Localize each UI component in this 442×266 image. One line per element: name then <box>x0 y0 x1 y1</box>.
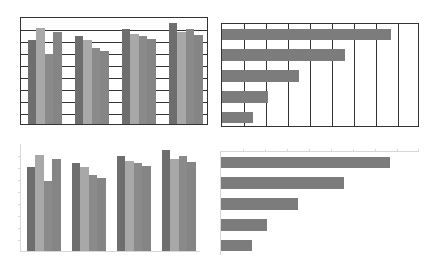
x-tick <box>397 149 398 152</box>
bar <box>221 157 390 168</box>
chart-top-right <box>221 23 419 127</box>
bar <box>222 112 253 123</box>
bar <box>83 40 92 124</box>
bar <box>100 51 109 124</box>
bar <box>222 70 299 81</box>
bar <box>44 181 53 251</box>
gridline <box>398 24 399 126</box>
bar <box>134 163 143 251</box>
bar <box>170 159 179 251</box>
bar <box>45 54 54 124</box>
bar <box>162 150 171 251</box>
y-tick <box>18 204 21 205</box>
bar <box>187 162 196 251</box>
bar <box>221 198 298 209</box>
bar <box>139 36 148 124</box>
chart-top-left <box>20 17 208 125</box>
bar <box>52 159 61 251</box>
bar <box>130 34 139 124</box>
x-tick <box>265 149 266 152</box>
bar <box>147 39 156 124</box>
y-tick <box>18 192 21 193</box>
x-tick <box>287 149 288 152</box>
bar <box>221 177 344 188</box>
bar <box>27 167 36 251</box>
bar <box>75 36 84 124</box>
x-tick <box>243 149 244 152</box>
bar <box>117 156 126 251</box>
plot-area <box>220 151 418 255</box>
x-tick <box>418 149 419 152</box>
bar <box>53 32 62 124</box>
bar <box>89 175 98 251</box>
x-tick <box>309 149 310 152</box>
y-tick <box>18 180 21 181</box>
chart-bottom-left <box>20 144 200 252</box>
bar <box>80 167 89 251</box>
plot-area <box>221 23 419 127</box>
y-tick <box>18 216 21 217</box>
x-tick <box>375 149 376 152</box>
bar <box>28 40 37 124</box>
bar <box>221 240 252 251</box>
bar <box>194 35 203 124</box>
bar <box>169 23 178 124</box>
chart-bottom-right <box>220 151 418 255</box>
y-tick <box>18 228 21 229</box>
bar <box>35 155 44 251</box>
bar <box>222 49 345 60</box>
bar <box>177 32 186 124</box>
bar <box>142 166 151 251</box>
plot-area <box>20 17 208 125</box>
plot-area <box>20 144 200 252</box>
bar <box>222 29 391 40</box>
y-tick <box>18 240 21 241</box>
bar <box>125 161 134 251</box>
bar <box>122 29 131 124</box>
bar <box>72 163 81 251</box>
y-tick <box>18 168 21 169</box>
y-tick <box>18 156 21 157</box>
x-tick <box>331 149 332 152</box>
bar <box>179 156 188 251</box>
bar <box>222 91 268 102</box>
bar <box>186 29 195 124</box>
bar <box>92 48 101 124</box>
x-tick <box>353 149 354 152</box>
bar <box>221 219 267 230</box>
bar <box>97 178 106 251</box>
bar <box>36 28 45 124</box>
